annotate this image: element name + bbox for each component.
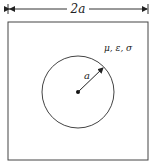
dimension-label: 2a (70, 2, 86, 16)
diagram-canvas: 2a a μ, ε, σ (0, 0, 156, 166)
radius-label: a (84, 70, 90, 81)
radius-arrow (78, 68, 103, 92)
material-label: μ, ε, σ (104, 43, 133, 53)
